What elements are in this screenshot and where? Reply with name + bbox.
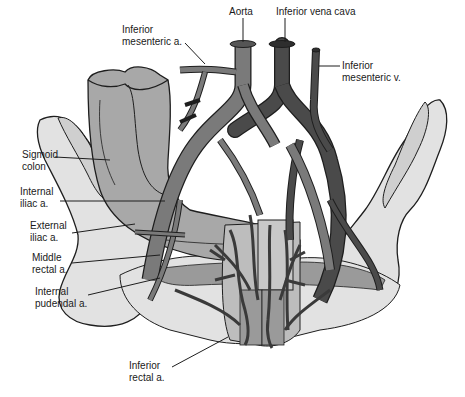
label-inferior-mesenteric-artery-line2: mesenteric a. <box>122 36 182 48</box>
label-inferior-mesenteric-vein-line2: mesenteric v. <box>342 72 401 84</box>
label-sigmoid-colon-line2: colon <box>22 161 46 173</box>
label-middle-rectal-artery-line1: Middle <box>32 252 61 264</box>
label-inferior-rectal-artery-line2: rectal a. <box>129 372 165 384</box>
rectal-blood-supply-illustration <box>0 0 465 397</box>
label-internal-iliac-artery-line1: Internal <box>20 186 53 198</box>
label-sigmoid-colon-line1: Sigmoid <box>22 149 58 161</box>
label-internal-pudendal-artery-line1: Internal <box>35 286 68 298</box>
label-inferior-mesenteric-vein-line1: Inferior <box>342 60 373 72</box>
label-inferior-vena-cava: Inferior vena cava <box>276 6 356 18</box>
label-internal-iliac-artery-line2: iliac a. <box>20 198 48 210</box>
label-inferior-mesenteric-artery-line1: Inferior <box>122 24 153 36</box>
label-external-iliac-artery-line1: External <box>30 220 67 232</box>
label-middle-rectal-artery-line2: rectal a. <box>32 264 68 276</box>
label-aorta: Aorta <box>229 6 253 18</box>
label-external-iliac-artery-line2: iliac a. <box>30 232 58 244</box>
label-inferior-rectal-artery-line1: Inferior <box>129 360 160 372</box>
label-internal-pudendal-artery-line2: pudendal a. <box>35 298 87 310</box>
